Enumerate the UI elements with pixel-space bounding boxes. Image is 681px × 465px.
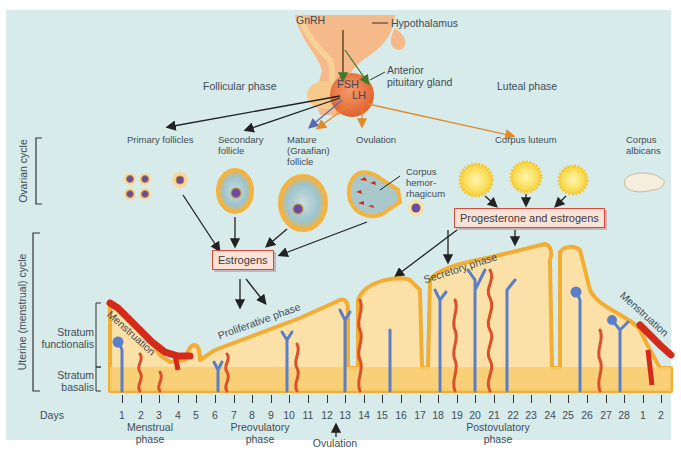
day-tick [606, 395, 607, 403]
day-label: 14 [354, 409, 374, 421]
day-label: 4 [168, 409, 188, 421]
day-tick [327, 395, 328, 403]
mature-to-estrogens-arrow [267, 229, 287, 246]
day-label: 7 [224, 409, 244, 421]
progesterone-estrogens-box: Progesterone and estrogens [454, 208, 605, 228]
pituitary-label-line2: pituitary gland [387, 76, 452, 88]
corpus-albicans-label-1: Corpus [626, 134, 657, 145]
lh-label: LH [352, 89, 366, 101]
day-label: 24 [540, 409, 560, 421]
primary-follicles-label: Primary follicles [127, 134, 194, 145]
postovulatory-phase-label-2: phase [458, 433, 538, 445]
day-tick [308, 395, 309, 403]
day-label: 1 [633, 409, 653, 421]
day-label: 16 [391, 409, 411, 421]
luteal-phase-label: Luteal phase [497, 80, 557, 92]
day-label: 6 [205, 409, 225, 421]
preovulatory-phase-label-2: phase [225, 433, 295, 445]
day-tick [159, 395, 160, 403]
day-tick [122, 395, 123, 403]
day-label: 20 [465, 409, 485, 421]
estrogens-box: Estrogens [212, 250, 274, 270]
pituitary-label-line1: Anterior [387, 64, 424, 76]
stratum-basalis-label-2: basalis [40, 381, 94, 393]
day-label: 23 [521, 409, 541, 421]
menstrual-phase-label-2: phase [120, 433, 180, 445]
ovarian-bracket [36, 138, 42, 204]
day-label: 10 [279, 409, 299, 421]
day-tick [178, 395, 179, 403]
secondary-follicle-label-1: Secondary [218, 134, 263, 145]
days-label: Days [40, 409, 64, 421]
corpus-luteum-label: Corpus luteum [495, 134, 557, 145]
mature-follicle-label-3: follicle [287, 156, 313, 167]
mature-follicle [280, 176, 326, 230]
day-label: 26 [577, 409, 597, 421]
ovarian-cycle-label: Ovarian cycle [17, 136, 29, 206]
day-tick [196, 395, 197, 403]
day-label: 2 [651, 409, 671, 421]
primary-follicles [124, 172, 188, 200]
day-tick [141, 395, 142, 403]
day-label: 27 [596, 409, 616, 421]
day-label: 8 [242, 409, 262, 421]
basalis-bracket [96, 367, 101, 391]
day-label: 9 [261, 409, 281, 421]
lh-to-corpus-luteum-arrow [368, 104, 513, 136]
day-tick [624, 395, 625, 403]
day-tick [364, 395, 365, 403]
day-tick [345, 395, 346, 403]
day-label: 22 [503, 409, 523, 421]
stratum-functionalis-label-1: Stratum [40, 326, 94, 338]
stratum-basalis-label-1: Stratum [40, 369, 94, 381]
secondary-follicle-label-2: follicle [218, 145, 244, 156]
ovulation-stage-label: Ovulation [356, 134, 396, 145]
mature-follicle-label-2: (Graafian) [287, 145, 330, 156]
primary-to-estrogens-arrow [183, 195, 219, 250]
corpus-hemorrhagicum-label-3: rhagicum [406, 188, 445, 199]
cl3-to-progesterone-arrow [556, 196, 566, 206]
functionalis-bracket [96, 303, 101, 367]
day-tick [234, 395, 235, 403]
ovulation-day-label: Ovulation [305, 437, 365, 449]
cl1-to-progesterone-arrow [485, 196, 496, 206]
day-tick [568, 395, 569, 403]
day-label: 15 [372, 409, 392, 421]
day-tick [475, 395, 476, 403]
day-tick [215, 395, 216, 403]
day-label: 11 [298, 409, 318, 421]
pituitary-leader [370, 72, 385, 80]
mature-follicle-label-1: Mature [287, 134, 317, 145]
day-tick [252, 395, 253, 403]
day-tick [494, 395, 495, 403]
day-tick [457, 395, 458, 403]
stratum-functionalis-label-2: functionalis [40, 338, 94, 350]
estrogens-down-arrow-2 [246, 279, 265, 303]
day-label: 13 [335, 409, 355, 421]
day-label: 1 [112, 409, 132, 421]
day-label: 2 [131, 409, 151, 421]
day-label: 18 [428, 409, 448, 421]
corpus-albicans-label-2: albicans [626, 145, 661, 156]
day-label: 3 [149, 409, 169, 421]
day-label: 21 [484, 409, 504, 421]
preovulatory-phase-label-1: Preovulatory [225, 421, 295, 433]
day-tick [438, 395, 439, 403]
day-tick [289, 395, 290, 403]
diagram-graphics [0, 0, 681, 465]
follicular-phase-label: Follicular phase [203, 80, 277, 92]
day-tick [661, 395, 662, 403]
menstrual-phase-label-1: Menstrual [120, 421, 180, 433]
day-tick [382, 395, 383, 403]
hypothalamus-label: Hypothalamus [391, 17, 458, 29]
day-tick [531, 395, 532, 403]
day-tick [420, 395, 421, 403]
day-tick [513, 395, 514, 403]
fsh-to-primary-arrow [168, 96, 340, 127]
secondary-follicle [218, 170, 252, 212]
day-label: 25 [558, 409, 578, 421]
postovulatory-phase-label-1: Postovulatory [458, 421, 538, 433]
day-tick [550, 395, 551, 403]
day-label: 28 [614, 409, 634, 421]
day-label: 5 [186, 409, 206, 421]
